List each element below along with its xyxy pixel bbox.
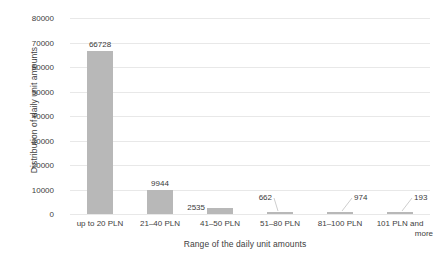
- bar-value-label: 974: [354, 193, 380, 202]
- y-axis-tick-label: 60000: [0, 63, 54, 72]
- y-axis-tick-label: 20000: [0, 161, 54, 170]
- y-axis-tick-label: 50000: [0, 87, 54, 96]
- y-axis-tick-label: 80000: [0, 14, 54, 23]
- bar: [207, 208, 233, 214]
- bar-value-label: 2535: [181, 203, 205, 212]
- gridline: [70, 116, 430, 117]
- gridline: [70, 214, 430, 215]
- plot-area: 0100002000030000400005000060000700008000…: [70, 18, 430, 214]
- x-axis-category-label: 21–40 PLN: [127, 219, 193, 229]
- bar: [267, 212, 293, 214]
- value-leader-line: [402, 198, 414, 213]
- gridline: [70, 92, 430, 93]
- y-axis-tick-label: 10000: [0, 185, 54, 194]
- gridline: [70, 190, 430, 191]
- bar-value-label: 193: [414, 193, 440, 202]
- bar-chart: Distribution of daily unit amounts Range…: [0, 0, 444, 258]
- x-axis-category-label: 41–50 PLN: [187, 219, 253, 229]
- x-axis-category-label: up to 20 PLN: [67, 219, 133, 229]
- bar-value-label: 66728: [84, 40, 116, 49]
- bar-value-label: 662: [246, 193, 272, 202]
- value-leader-line: [274, 198, 280, 213]
- bar-value-label: 9944: [144, 179, 176, 188]
- y-axis-tick-label: 70000: [0, 38, 54, 47]
- gridline: [70, 43, 430, 44]
- y-axis-tick-label: 0: [0, 210, 54, 219]
- value-leader-line: [342, 198, 354, 213]
- gridline: [70, 141, 430, 142]
- x-axis-category-label: 51–80 PLN: [247, 219, 313, 229]
- bar: [87, 51, 113, 214]
- bar: [387, 212, 413, 214]
- x-axis-category-label: 101 PLN andmore: [367, 219, 433, 239]
- x-axis-category-label: 81–100 PLN: [307, 219, 373, 229]
- y-axis-tick-label: 40000: [0, 112, 54, 121]
- x-axis-title: Range of the daily unit amounts: [60, 239, 430, 249]
- gridline: [70, 165, 430, 166]
- gridline: [70, 18, 430, 19]
- bar: [327, 212, 353, 214]
- y-axis-tick-label: 30000: [0, 136, 54, 145]
- bar: [147, 190, 173, 214]
- gridline: [70, 67, 430, 68]
